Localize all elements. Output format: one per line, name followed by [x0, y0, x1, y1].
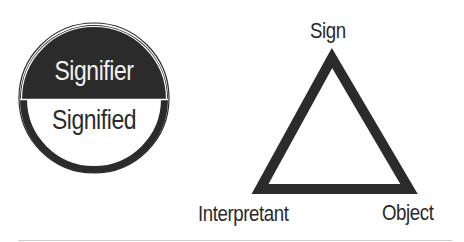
sign-label: Sign [310, 20, 346, 42]
signifier-label: Signifier [30, 58, 158, 85]
signified-label: Signified [30, 107, 158, 134]
peirce-triangle [260, 58, 409, 189]
saussure-circle [19, 23, 169, 173]
semiotics-diagram: Signifier Signified Sign Interpretant Ob… [0, 0, 464, 242]
interpretant-label: Interpretant [198, 203, 289, 225]
object-label: Object [382, 202, 434, 224]
